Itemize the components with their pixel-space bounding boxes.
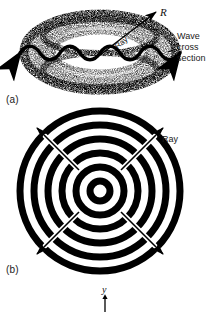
y-axis-label: y — [102, 284, 106, 295]
wavefront-ring — [76, 167, 124, 215]
panel-a-wave-shell — [20, 12, 180, 92]
ray-arrows-b — [36, 127, 164, 255]
radius-symbol-label: R — [160, 6, 167, 18]
panel-label-b: (b) — [6, 264, 19, 275]
ray-label-panel-b: Ray — [162, 134, 178, 145]
caption-line-3: section — [177, 53, 206, 63]
panel-label-a: (a) — [6, 94, 19, 105]
panel-b-wavefront-rings — [20, 111, 180, 271]
caption-line-2: cross — [177, 42, 199, 52]
wavefront-ring — [90, 181, 110, 201]
caption-line-1: Wave — [177, 31, 200, 41]
y-axis-arrow — [102, 294, 107, 312]
wave-cross-section-caption: Wave cross section — [177, 31, 206, 64]
